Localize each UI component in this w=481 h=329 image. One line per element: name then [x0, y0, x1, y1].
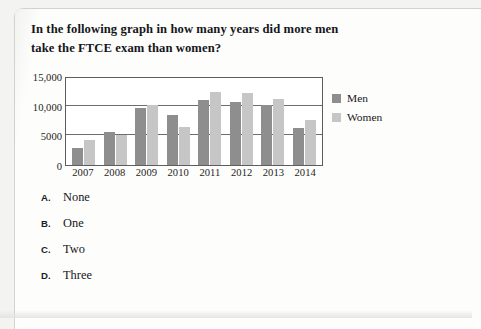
option-text: Three [63, 268, 92, 283]
option-text: Two [63, 242, 85, 257]
bar-group [261, 78, 284, 165]
legend-label-men: Men [347, 92, 368, 104]
bar-women-2014 [305, 120, 316, 165]
x-tick-label: 2013 [262, 167, 285, 178]
bar-women-2007 [84, 140, 95, 166]
option-text: None [63, 190, 90, 205]
option-letter: C. [41, 244, 54, 255]
bars-container [66, 78, 322, 165]
legend-label-women: Women [347, 111, 382, 123]
bar-group [167, 78, 190, 165]
x-tick-label: 2010 [167, 167, 190, 178]
x-tick-label: 2008 [103, 167, 126, 178]
answer-option-c[interactable]: C.Two [41, 242, 92, 268]
x-tick-label: 2012 [230, 167, 253, 178]
legend-item-women: Women [332, 111, 382, 123]
bar-men-2007 [72, 148, 83, 165]
bar-group [293, 78, 316, 165]
x-tick-label: 2014 [294, 167, 317, 178]
x-tick-label: 2007 [71, 167, 94, 178]
y-tick-label: 5000 [41, 131, 62, 142]
y-tick-label: 10,000 [33, 101, 62, 112]
legend-swatch-women-icon [332, 113, 341, 122]
bar-women-2011 [210, 92, 221, 165]
bar-men-2008 [104, 132, 115, 165]
plot-area [65, 77, 323, 166]
bar-men-2014 [293, 128, 304, 165]
option-letter: D. [41, 270, 54, 281]
bar-chart: 0500010,00015,000 2007200820092010201120… [22, 70, 442, 185]
bar-group [135, 78, 158, 165]
bar-women-2012 [242, 93, 253, 165]
bar-men-2010 [167, 115, 178, 165]
x-tick-label: 2009 [135, 167, 158, 178]
bar-women-2008 [116, 135, 127, 165]
x-axis-labels: 20072008200920102011201220132014 [65, 167, 323, 178]
bar-group [72, 78, 95, 165]
option-letter: A. [41, 192, 54, 203]
bar-group [198, 78, 221, 165]
chart-legend: Men Women [332, 92, 382, 130]
bar-group [104, 78, 127, 165]
bar-women-2013 [273, 99, 284, 165]
y-tick-label: 15,000 [33, 72, 62, 83]
bar-women-2010 [179, 127, 190, 165]
bar-men-2009 [135, 108, 146, 165]
x-tick-label: 2011 [198, 167, 221, 178]
option-letter: B. [41, 218, 54, 229]
y-tick-label: 0 [57, 161, 62, 172]
answer-option-a[interactable]: A.None [41, 190, 92, 216]
y-axis-labels: 0500010,00015,000 [22, 70, 62, 166]
answer-option-d[interactable]: D.Three [41, 268, 92, 294]
legend-item-men: Men [332, 92, 382, 104]
legend-swatch-men-icon [332, 94, 341, 103]
bar-men-2012 [230, 102, 241, 165]
answer-option-b[interactable]: B.One [41, 216, 92, 242]
bar-men-2011 [198, 100, 209, 165]
question-text: In the following graph in how many years… [31, 20, 343, 58]
answer-options: A.NoneB.OneC.TwoD.Three [41, 190, 92, 294]
bar-women-2009 [147, 105, 158, 165]
bar-men-2013 [261, 105, 272, 165]
bar-group [230, 78, 253, 165]
option-text: One [63, 216, 84, 231]
